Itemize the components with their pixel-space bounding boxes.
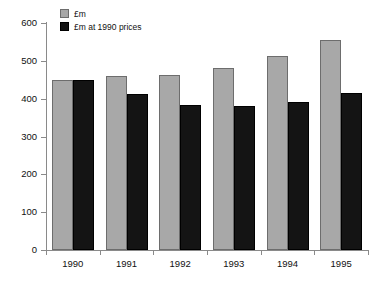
y-tick-label: 0 xyxy=(0,245,37,255)
chart-legend: £m£m at 1990 prices xyxy=(60,8,142,34)
y-tick-label: 600 xyxy=(0,18,37,28)
bar-1993-series-0 xyxy=(213,68,234,250)
y-tick-label: 500 xyxy=(0,56,37,66)
x-tick-label: 1993 xyxy=(207,258,261,269)
x-tick-mark xyxy=(100,251,101,255)
legend-swatch-icon xyxy=(60,22,69,31)
y-tick-label: 200 xyxy=(0,169,37,179)
x-tick-mark xyxy=(207,251,208,255)
bar-1991-series-1 xyxy=(127,94,148,250)
bar-1992-series-1 xyxy=(180,105,201,250)
bar-1990-series-0 xyxy=(52,80,73,250)
legend-label: £m xyxy=(74,9,86,19)
bar-1993-series-1 xyxy=(234,106,255,250)
x-tick-label: 1991 xyxy=(100,258,154,269)
bar-1995-series-0 xyxy=(320,40,341,250)
legend-label: £m at 1990 prices xyxy=(74,22,142,32)
legend-item-0: £m xyxy=(60,8,142,19)
x-tick-mark xyxy=(153,251,154,255)
y-tick-label: 400 xyxy=(0,94,37,104)
y-tick-label: 300 xyxy=(0,132,37,142)
y-tick-label: 100 xyxy=(0,207,37,217)
x-tick-label: 1994 xyxy=(261,258,315,269)
bar-1994-series-0 xyxy=(267,56,288,250)
bar-1995-series-1 xyxy=(341,93,362,250)
bar-chart: £ millions 0100200300400500600 199019911… xyxy=(0,0,375,281)
legend-swatch-icon xyxy=(60,9,69,18)
x-tick-label: 1995 xyxy=(314,258,368,269)
x-tick-mark xyxy=(314,251,315,255)
x-tick-label: 1992 xyxy=(153,258,207,269)
plot-area xyxy=(46,23,368,250)
x-tick-mark xyxy=(368,251,369,255)
x-tick-mark xyxy=(46,251,47,255)
bar-1990-series-1 xyxy=(73,80,94,250)
x-tick-mark xyxy=(261,251,262,255)
bar-1991-series-0 xyxy=(106,76,127,250)
legend-item-1: £m at 1990 prices xyxy=(60,21,142,32)
x-tick-label: 1990 xyxy=(46,258,100,269)
bar-1994-series-1 xyxy=(288,102,309,250)
bar-1992-series-0 xyxy=(159,75,180,250)
